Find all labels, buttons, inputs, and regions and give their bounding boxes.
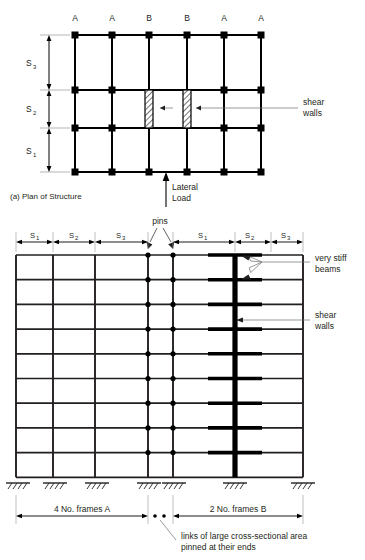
plan-column-node	[258, 87, 265, 94]
plan-shear-wall-2	[183, 90, 191, 128]
pin-dot	[145, 252, 150, 257]
bottom-label-frames-b: 2 No. frames B	[210, 504, 267, 514]
plan-column-label-3: B	[146, 13, 152, 23]
plan-column-node	[72, 125, 79, 132]
lateral-load-label-line1: Lateral	[172, 182, 198, 192]
pin-dot	[145, 302, 150, 307]
plan-column-node	[221, 169, 228, 176]
stiff-beams-label-line2: beams	[315, 264, 341, 274]
plan-column-label-2: A	[109, 13, 115, 23]
plan-column-node	[72, 169, 79, 176]
pin-dot	[145, 401, 150, 406]
plan-column-node	[258, 125, 265, 132]
elev-dim-label-s3-right: S	[281, 231, 286, 240]
pin-dot	[170, 302, 175, 307]
plan-column-node	[184, 32, 191, 39]
plan-column-node	[184, 169, 191, 176]
pin-dot	[145, 425, 150, 430]
pin-dot	[170, 450, 175, 455]
bottom-label-frames-a: 4 No. frames A	[54, 504, 111, 514]
pin-dot	[170, 351, 175, 356]
pin-dot	[145, 327, 150, 332]
elevation-shear-walls-label-line1: shear	[315, 310, 336, 320]
plan-column-node	[109, 125, 116, 132]
pin-dot	[170, 252, 175, 257]
elev-dim-label-s3-left: S	[116, 231, 121, 240]
link-dot	[162, 514, 166, 518]
plan-shear-walls-label-line2: walls	[302, 108, 322, 118]
plan-column-label-1: A	[72, 13, 78, 23]
plan-dim-label-s3: S	[26, 58, 32, 68]
elev-dim-label-s2-right: S	[245, 231, 250, 240]
pin-dot	[170, 401, 175, 406]
plan-column-node	[258, 32, 265, 39]
plan-column-node	[146, 32, 153, 39]
plan-column-node	[258, 169, 265, 176]
link-dot	[153, 514, 157, 518]
structural-frame-shearwall-figure: A A B B A A	[0, 0, 365, 560]
plan-caption: (a) Plan of Structure	[10, 192, 82, 201]
pin-dot	[145, 351, 150, 356]
pin-dot	[170, 277, 175, 282]
plan-column-label-6: A	[258, 13, 264, 23]
elev-dim-label-s2-left: S	[69, 231, 74, 240]
plan-dim-label-s2: S	[26, 104, 32, 114]
elevation-shear-walls-label-line2: walls	[314, 321, 334, 331]
pin-dot	[145, 376, 150, 381]
pin-dot	[145, 450, 150, 455]
plan-column-node	[221, 125, 228, 132]
pin-dot	[170, 425, 175, 430]
plan-shear-walls-label-line1: shear	[303, 97, 324, 107]
plan-column-node	[109, 169, 116, 176]
plan-column-node	[109, 87, 116, 94]
plan-column-node	[109, 32, 116, 39]
plan-column-node	[221, 87, 228, 94]
lateral-load-label-line2: Load	[172, 193, 191, 203]
plan-column-node	[146, 169, 153, 176]
pin-dot	[170, 327, 175, 332]
plan-column-node	[72, 32, 79, 39]
plan-column-label-4: B	[184, 13, 190, 23]
plan-dim-label-s1: S	[26, 146, 32, 156]
plan-column-label-5: A	[221, 13, 227, 23]
stiff-beams-label-line1: very stiff	[315, 253, 347, 263]
links-note-line1: links of large cross-sectional area	[181, 531, 307, 541]
pins-label: pins	[152, 216, 168, 226]
elev-dim-label-s1-left: S	[30, 231, 35, 240]
plan-column-node	[221, 32, 228, 39]
plan-column-node	[72, 87, 79, 94]
elev-dim-label-s1-right: S	[198, 231, 203, 240]
pin-dot	[170, 376, 175, 381]
links-note-line2: pinned at their ends	[181, 542, 256, 552]
pin-dot	[145, 277, 150, 282]
plan-shear-wall-1	[145, 90, 153, 128]
